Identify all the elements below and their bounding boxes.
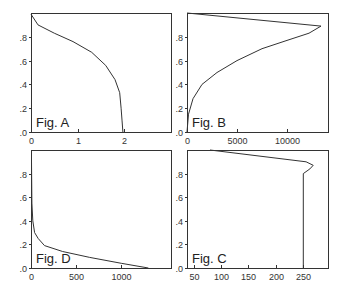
y-tick-label: .2 [19,240,27,250]
x-tick-label: 500 [69,272,84,282]
y-tick-label: .0 [19,128,27,138]
y-tick-label: .4 [19,80,27,90]
y-tick-label: .2 [175,240,183,250]
x-tick-label: 0 [185,136,190,146]
x-tick-label: 200 [269,272,284,282]
panel-d: .0.2.4.6.805001000Fig. D [19,151,171,283]
y-tick-label: .4 [19,217,27,227]
y-tick-label: .0 [19,264,27,274]
y-tick-label: .8 [175,33,183,43]
x-tick-label: 10000 [275,136,300,146]
y-tick-label: .2 [19,104,27,114]
y-tick-label: .6 [175,193,183,203]
x-tick-label: 2 [122,136,127,146]
y-tick-label: .6 [19,193,27,203]
y-tick-label: .4 [175,80,183,90]
y-tick-label: .8 [19,170,27,180]
y-tick-label: .2 [175,104,183,114]
x-tick-label: 150 [241,272,256,282]
x-tick-label: 50 [189,272,199,282]
y-tick-label: .6 [19,57,27,67]
figure-label: Fig. A [36,115,70,130]
figure-label: Fig. D [36,251,71,266]
y-tick-label: .0 [175,264,183,274]
panel-a: .0.2.4.6.8012Fig. A [19,14,171,147]
x-tick-label: 250 [296,272,311,282]
y-tick-label: .8 [175,170,183,180]
x-tick-label: 1 [76,136,81,146]
x-tick-label: 5000 [227,136,247,146]
figure-label: Fig. B [192,115,226,130]
chart-figure: .0.2.4.6.8012Fig. A.0.2.4.6.80500010000F… [0,0,343,292]
panel-b: .0.2.4.6.80500010000Fig. B [175,13,328,146]
x-tick-label: 0 [29,136,34,146]
x-tick-label: 100 [214,272,229,282]
panel-c: .0.2.4.6.850100150200250Fig. C [175,150,328,282]
figure-label: Fig. C [192,251,227,266]
y-tick-label: .6 [175,57,183,67]
y-tick-label: .0 [175,128,183,138]
y-tick-label: .4 [175,217,183,227]
x-tick-label: 1000 [111,272,131,282]
x-tick-label: 0 [29,272,34,282]
y-tick-label: .8 [19,33,27,43]
